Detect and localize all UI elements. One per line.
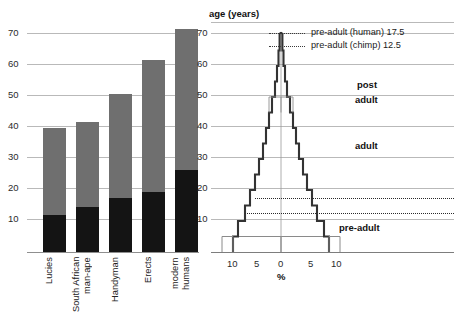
- bar-segment-pre-adult: [175, 170, 198, 252]
- pyramid-left-outline: [233, 33, 280, 252]
- bar-segment-pre-adult: [76, 207, 99, 252]
- bar-segment-pre-adult: [43, 215, 66, 252]
- y-tick-40: 40: [8, 120, 19, 131]
- bar-lucies: [43, 128, 66, 252]
- gridline-60: [27, 64, 199, 65]
- bar-segment-adult: [109, 94, 132, 198]
- bin-overhang-left: [222, 237, 233, 253]
- pyramid-outline: [205, 0, 454, 333]
- bar-erects: [142, 60, 165, 252]
- annotation-post-adult: adult: [355, 94, 378, 105]
- bar-label-lucies: Lucies: [44, 257, 55, 327]
- reference-line-human-17-5: [255, 198, 454, 199]
- y-tick-70: 70: [8, 27, 19, 38]
- bar-segment-pre-adult: [109, 198, 132, 252]
- bar-segment-adult: [43, 128, 66, 215]
- population-pyramid-chart: age (years) 70 60 50 40 30 20 10 pre-adu…: [205, 0, 454, 333]
- bar-segment-adult: [76, 122, 99, 207]
- axis-baseline: [27, 252, 199, 253]
- x-tick-right-5: 5: [308, 258, 313, 269]
- bar-label-erects: Erects: [143, 257, 154, 327]
- bar-segment-adult: [175, 29, 198, 170]
- y-tick-50: 50: [8, 89, 19, 100]
- y-tick-20: 20: [8, 182, 19, 193]
- y-tick-10: 10: [8, 213, 19, 224]
- bin-0-5-left: [233, 237, 281, 253]
- annotation-adult: adult: [355, 140, 378, 151]
- bar-label-handyman: Handyman: [110, 257, 121, 327]
- lifespan-bar-chart: 70 60 50 40 30 20 10: [0, 0, 205, 333]
- bar-handyman: [109, 94, 132, 252]
- bar-modern-humans: [175, 29, 198, 252]
- bar-south-african-man-ape: [76, 122, 99, 252]
- figure-root: 70 60 50 40 30 20 10: [0, 0, 454, 333]
- gridline-70: [27, 33, 199, 34]
- bar-label-south-african-man-ape: South African man-ape: [71, 257, 92, 327]
- y-tick-30: 30: [8, 151, 19, 162]
- bar-segment-adult: [142, 60, 165, 192]
- bar-segment-pre-adult: [142, 192, 165, 252]
- x-tick-left-5: 5: [254, 258, 259, 269]
- annotation-pre-adult: pre-adult: [339, 222, 380, 233]
- bin-0-5-right: [281, 237, 329, 253]
- x-tick-left-10: 10: [227, 258, 238, 269]
- annotation-post: post: [357, 79, 377, 90]
- bin-overhang-right: [329, 237, 340, 253]
- x-tick-0: 0: [278, 258, 283, 269]
- pyramid-right-outline: [282, 33, 329, 252]
- bar-label-modern-humans: modern humans: [170, 257, 191, 327]
- x-axis-label-percent: %: [277, 271, 285, 282]
- x-tick-right-10: 10: [331, 258, 342, 269]
- y-tick-60: 60: [8, 58, 19, 69]
- reference-line-chimp-12-5: [245, 213, 454, 214]
